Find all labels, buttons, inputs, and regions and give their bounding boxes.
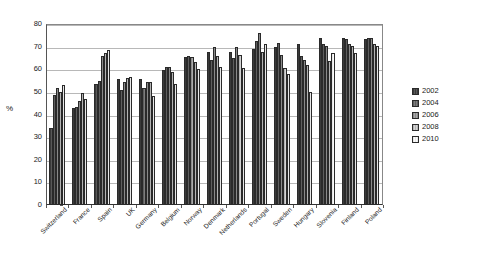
x-axis-category-label: Germany <box>134 206 158 230</box>
x-axis-category-label: Slovenia <box>315 206 338 229</box>
bar <box>354 53 357 205</box>
legend-item[interactable]: 2010 <box>412 133 474 145</box>
bar <box>152 96 155 205</box>
legend-label: 2004 <box>422 99 439 107</box>
legend-swatch-icon <box>412 100 419 107</box>
legend-swatch-icon <box>412 124 419 131</box>
bar <box>62 85 65 205</box>
y-axis-tick-labels: 01020304050607080 <box>16 24 42 205</box>
bar-group <box>181 24 203 205</box>
bar-group <box>158 24 180 205</box>
x-axis-category-label: Sweden <box>271 206 293 228</box>
legend-item[interactable]: 2002 <box>412 85 474 97</box>
y-axis-tick-label: 0 <box>22 201 42 209</box>
bar <box>107 50 110 205</box>
bar <box>331 53 334 205</box>
y-axis-tick-label: 50 <box>22 88 42 96</box>
bar-group <box>338 24 360 205</box>
x-axis-category-label: Portugal <box>248 206 270 228</box>
bar-group <box>91 24 113 205</box>
y-axis-tick-label: 30 <box>22 133 42 141</box>
y-axis-tick-label: 70 <box>22 43 42 51</box>
legend: 20022004200620082010 <box>412 85 474 145</box>
bar-chart-figure: % 01020304050607080 SwitzerlandFranceSpa… <box>0 0 478 253</box>
legend-item[interactable]: 2004 <box>412 97 474 109</box>
y-axis-tick-label: 40 <box>22 111 42 119</box>
x-axis-category-label: Poland <box>363 206 382 225</box>
bar <box>174 84 177 205</box>
bar <box>197 69 200 205</box>
bar <box>242 68 245 205</box>
x-axis-category-label: Switzerland <box>39 206 68 235</box>
bar-group <box>226 24 248 205</box>
bar-group <box>271 24 293 205</box>
legend-label: 2006 <box>422 111 439 119</box>
bar <box>84 99 87 205</box>
y-axis-tick-label: 60 <box>22 65 42 73</box>
bar-group <box>46 24 68 205</box>
bar <box>287 74 290 205</box>
x-axis-category-label: Belgium <box>159 206 181 228</box>
x-axis-category-label: Norway <box>182 206 203 227</box>
bar-group <box>293 24 315 205</box>
bar-group <box>203 24 225 205</box>
legend-label: 2008 <box>422 123 439 131</box>
bar-group <box>248 24 270 205</box>
bar <box>129 77 132 205</box>
x-axis-category-labels: SwitzerlandFranceSpainUKGermanyBelgiumNo… <box>46 206 386 253</box>
bar-group <box>113 24 135 205</box>
x-axis-category-label: UK <box>124 206 135 217</box>
legend-label: 2010 <box>422 135 439 143</box>
legend-item[interactable]: 2008 <box>412 121 474 133</box>
y-axis-tick-label: 20 <box>22 156 42 164</box>
bar <box>376 46 379 206</box>
legend-label: 2002 <box>422 87 439 95</box>
legend-swatch-icon <box>412 136 419 143</box>
x-axis-category-label: Hungary <box>293 206 316 229</box>
bars-layer <box>46 24 383 205</box>
bar-group <box>316 24 338 205</box>
y-axis-tick-label: 10 <box>22 178 42 186</box>
bar-group <box>361 24 383 205</box>
x-axis-category-label: Finland <box>340 206 360 226</box>
bar <box>264 44 267 205</box>
legend-item[interactable]: 2006 <box>412 109 474 121</box>
bar <box>219 67 222 205</box>
legend-swatch-icon <box>412 112 419 119</box>
bar-group <box>68 24 90 205</box>
bar-group <box>136 24 158 205</box>
y-axis-tick-label: 80 <box>22 20 42 28</box>
legend-swatch-icon <box>412 88 419 95</box>
y-axis-title: % <box>6 104 13 113</box>
x-axis-category-label: Spain <box>96 206 113 223</box>
x-axis-category-label: France <box>71 206 90 225</box>
bar <box>309 92 312 205</box>
